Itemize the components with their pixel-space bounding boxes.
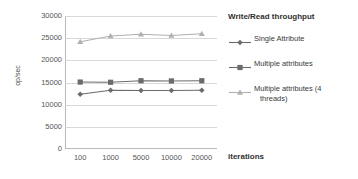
data-point-marker (169, 78, 174, 83)
data-point-marker (199, 78, 204, 83)
series-triangle (77, 31, 205, 44)
data-point-marker (108, 80, 113, 85)
y-axis-tick-label: 0 (24, 145, 62, 153)
y-axis-tick-labels: 050001000015000200002500030000 (24, 12, 62, 152)
chart-container: op/sec 050001000015000200002500030000 10… (0, 0, 358, 179)
data-point-marker (199, 87, 205, 93)
data-point-marker (108, 87, 114, 93)
legend-item[interactable]: Single Attribute (228, 34, 356, 45)
data-point-marker (77, 91, 83, 97)
series-plot (65, 16, 217, 149)
y-axis-tick-label: 15000 (24, 79, 62, 87)
x-axis-tick-labels: 100100050001000020000 (65, 153, 217, 167)
y-axis-tick-label: 10000 (24, 101, 62, 109)
plot-area (65, 16, 217, 149)
legend-label: Single Attribute (254, 34, 304, 44)
legend-marker-square-icon (228, 59, 252, 70)
legend-marker-diamond-icon (228, 34, 252, 45)
x-axis-title: iterations (228, 152, 264, 161)
y-axis-tick-label: 5000 (24, 123, 62, 131)
legend-items: Single AttributeMultiple attributesMulti… (228, 34, 356, 104)
y-axis-tick-label: 20000 (24, 56, 62, 64)
legend-label: Multiple attributes (4threads) (254, 84, 322, 104)
series-diamond (77, 87, 204, 97)
legend: Write/Read throughput Single AttributeMu… (228, 12, 356, 118)
data-point-marker (138, 88, 144, 94)
legend-label-line2: threads) (254, 94, 322, 104)
data-point-marker (169, 88, 175, 94)
y-axis-tick-label: 25000 (24, 34, 62, 42)
y-axis-tick-label: 30000 (24, 12, 62, 20)
legend-label: Multiple attributes (254, 59, 313, 69)
y-axis-title: op/sec (14, 46, 21, 106)
legend-item[interactable]: Multiple attributes (228, 59, 356, 70)
x-axis-tick-label: 20000 (182, 153, 222, 162)
data-point-marker (78, 79, 83, 84)
legend-item[interactable]: Multiple attributes (4threads) (228, 84, 356, 104)
legend-marker-triangle-icon (228, 84, 252, 95)
data-point-marker (138, 78, 143, 83)
series-square (78, 78, 205, 85)
chart-title: Write/Read throughput (228, 12, 356, 21)
